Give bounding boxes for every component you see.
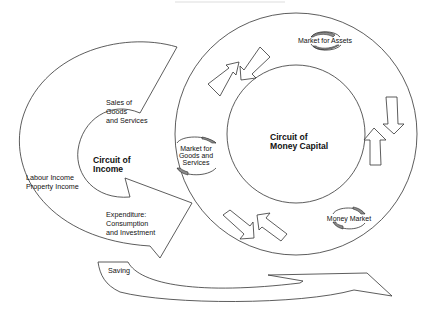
market-goods: Market for Goods and Services xyxy=(177,137,216,175)
expenditure-label-3: and Investment xyxy=(106,228,155,237)
arrow-down-left-icon xyxy=(240,47,270,80)
money-capital-title-2: Money Capital xyxy=(270,141,328,151)
sales-label-1: Sales of xyxy=(106,98,132,107)
income-label-1: Labour Income xyxy=(26,173,74,182)
circuit-diagram: Market for Assets Market for Goods and S… xyxy=(0,0,425,318)
arrow-up-icon xyxy=(364,128,386,165)
arrow-up-left-icon xyxy=(257,213,287,241)
expenditure-label-1: Expenditure: xyxy=(106,210,146,219)
income-label-2: Property Income xyxy=(26,182,79,191)
market-goods-label-2: Goods and xyxy=(179,152,213,159)
cycle-arrow-top-icon xyxy=(202,137,216,143)
saving-arrow xyxy=(98,262,392,302)
sales-label-2: Goods xyxy=(106,107,128,116)
arrow-down-right-icon xyxy=(223,210,254,239)
sales-label-3: and Services xyxy=(106,116,148,125)
market-goods-label-3: Services xyxy=(183,159,210,166)
cycle-arrow-bottom-icon xyxy=(333,222,343,229)
money-market: Money Market xyxy=(327,207,371,229)
saving-label: Saving xyxy=(108,266,130,275)
expenditure-label-2: Consumption xyxy=(106,219,148,228)
cycle-arrow-bottom-icon xyxy=(177,168,188,175)
arrow-up-right-icon xyxy=(208,62,239,96)
circuit-income-title-2: Income xyxy=(93,164,123,174)
arrow-down-icon xyxy=(383,97,404,134)
market-goods-label-1: Market for xyxy=(180,145,212,152)
money-market-label: Money Market xyxy=(327,215,371,223)
market-assets: Market for Assets xyxy=(298,32,353,50)
cycle-arrow-top-icon xyxy=(353,207,365,214)
market-assets-label: Market for Assets xyxy=(298,37,353,44)
